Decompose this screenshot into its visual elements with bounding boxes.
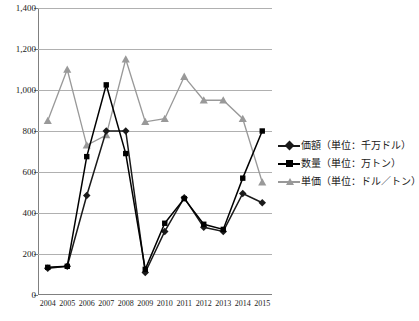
legend-swatch-triangle-icon [278,175,300,189]
series-line [48,59,263,182]
legend-label: 単価（単位：ドル／トン） [301,177,419,187]
data-point-marker [84,154,89,159]
data-point-marker [180,73,188,80]
legend-item-2[interactable]: 数量（単位：万トン） [278,156,419,172]
data-point-marker [44,117,52,124]
series-1 [44,127,266,276]
data-point-marker [260,128,265,133]
data-point-marker [122,127,129,134]
legend-item-3[interactable]: 単価（単位：ドル／トン） [278,174,419,190]
data-point-marker [182,196,187,201]
data-point-marker [63,65,71,72]
chart-legend: 価額（単位：千万ドル）数量（単位：万トン）単価（単位：ドル／トン） [278,138,419,190]
data-point-marker [123,151,128,156]
data-point-marker [65,264,70,269]
data-point-marker [122,55,130,62]
legend-swatch-square-icon [278,157,300,171]
data-point-marker [45,265,50,270]
data-point-marker [201,222,206,227]
legend-label: 価額（単位：千万ドル） [301,141,411,151]
legend-swatch-diamond-icon [278,139,300,153]
data-point-marker [83,192,90,199]
data-point-marker [258,178,266,185]
data-point-marker [240,175,245,180]
data-point-marker [259,199,266,206]
legend-item-1[interactable]: 価額（単位：千万ドル） [278,138,419,154]
series-3 [44,55,267,185]
data-point-marker [239,190,246,197]
series-line [48,131,263,272]
legend-label: 数量（単位：万トン） [301,159,401,169]
data-point-marker [162,221,167,226]
data-point-marker [143,267,148,272]
data-point-marker [103,127,110,134]
data-point-marker [221,227,226,232]
data-point-marker [161,115,169,122]
data-point-marker [104,82,109,87]
series-line [48,85,263,270]
